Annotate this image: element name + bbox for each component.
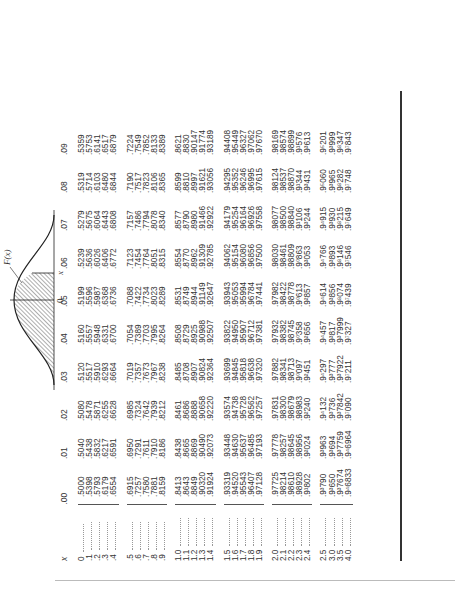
normal-density-shaded-icon — [8, 205, 60, 395]
header-col: .00 — [60, 459, 78, 505]
table-header-row: x .00 .01 .02 .03 .04 .05 .06 .07 .08 .0… — [60, 117, 78, 561]
normal-cdf-table: x .00 .01 .02 .03 .04 .05 .06 .07 .08 .0… — [60, 117, 353, 561]
header-col: .09 — [60, 117, 78, 155]
cdf-cell: .9³053 — [304, 231, 312, 269]
cdf-cell: .8389 — [159, 117, 167, 155]
cdf-cell: .6700 — [110, 307, 118, 345]
row-x-value: .2 — [94, 505, 102, 562]
x-label: 1.9 — [255, 550, 264, 561]
table-row: .4.6554.6591.6628.6664.6700.6736.6772.68… — [110, 117, 118, 561]
cdf-cell: .8159 — [159, 459, 167, 505]
cdf-cell: .97500 — [256, 231, 264, 269]
dot-leader — [135, 522, 141, 550]
cdf-cell: .8238 — [159, 345, 167, 383]
cdf-cell: .97381 — [256, 307, 264, 345]
x-label: .4 — [109, 554, 118, 561]
cdf-cell: .97193 — [256, 421, 264, 459]
cdf-cell: .9¹802 — [304, 459, 312, 505]
table-row: 2.4.9¹802.9²024.9²240.9²451.9²656.9²857.… — [304, 117, 312, 561]
cdf-cell: .9³613 — [304, 117, 312, 155]
cdf-cell: .97320 — [256, 345, 264, 383]
cdf-cell: .9⁷211 — [345, 345, 353, 383]
row-x-value: .4 — [110, 505, 118, 562]
cdf-cell: .9⁷649 — [345, 193, 353, 231]
dot-leader — [94, 522, 100, 550]
header-col: .06 — [60, 231, 78, 269]
cdf-cell: .8365 — [159, 155, 167, 193]
cdf-cell: .6808 — [110, 193, 118, 231]
page-margin-rule — [55, 580, 455, 581]
row-x-value: .7 — [143, 505, 151, 562]
dot-leader — [337, 518, 343, 546]
header-x: x — [60, 505, 78, 562]
cdf-cell: .92647 — [207, 269, 215, 307]
cdf-cell: .8315 — [159, 231, 167, 269]
header-col: .01 — [60, 421, 78, 459]
cdf-cell: .93056 — [207, 155, 215, 193]
cdf-cell: .9⁴6964 — [345, 421, 353, 459]
table-row: 1.9.97128.97193.97257.97320.97381.97441.… — [256, 117, 264, 561]
cdf-cell: .92220 — [207, 383, 215, 421]
dot-leader — [240, 518, 246, 546]
row-x-value: .6 — [135, 505, 143, 562]
cdf-cell: .9²240 — [304, 383, 312, 421]
row-x-value: .1 — [86, 505, 94, 562]
dot-leader — [329, 518, 335, 546]
table-body: 0.5000.5040.5080.5120.5160.5199.5239.527… — [78, 117, 353, 561]
dot-leader — [86, 522, 92, 550]
cdf-cell: .97441 — [256, 269, 264, 307]
header-col: .08 — [60, 155, 78, 193]
dot-leader — [224, 518, 230, 546]
header-col: .02 — [60, 383, 78, 421]
cdf-cell: .92922 — [207, 193, 215, 231]
normal-curve-figure: F(x) 0 x — [8, 205, 60, 395]
cdf-cell: .92507 — [207, 307, 215, 345]
dot-leader — [183, 518, 189, 546]
cdf-cell: .6772 — [110, 231, 118, 269]
dot-leader — [345, 518, 351, 546]
row-x-value: .3 — [102, 505, 110, 562]
header-col: .04 — [60, 307, 78, 345]
x-label: 2.4 — [303, 550, 312, 561]
dot-leader — [110, 522, 116, 550]
x-label: .9 — [158, 554, 167, 561]
dot-leader — [272, 518, 278, 546]
header-col: .05 — [60, 269, 78, 307]
dot-leader — [296, 518, 302, 546]
cdf-cell: .9⁷090 — [345, 383, 353, 421]
cdf-cell: .97670 — [256, 117, 264, 155]
x-label: 1.4 — [206, 550, 215, 561]
cdf-cell: .9⁷748 — [345, 155, 353, 193]
dot-leader — [102, 522, 108, 550]
cdf-cell: .6664 — [110, 345, 118, 383]
table-row: 1.4.91924.92073.92220.92364.92507.92647.… — [207, 117, 215, 561]
row-x-value: 2.4 — [304, 505, 312, 562]
cdf-cell: .9⁷843 — [345, 117, 353, 155]
cdf-cell: .8340 — [159, 193, 167, 231]
table-row: .9.8159.8186.8212.8238.8264.8289.8315.83… — [159, 117, 167, 561]
row-x-value: .9 — [159, 505, 167, 562]
cdf-cell: .9²857 — [304, 269, 312, 307]
dot-leader — [159, 522, 165, 550]
cdf-cell: .9⁷546 — [345, 231, 353, 269]
row-x-value: 0 — [78, 505, 86, 562]
row-x-value: 4.0 — [345, 505, 353, 562]
row-x-value: 1.9 — [256, 505, 264, 562]
cdf-cell: .91924 — [207, 459, 215, 505]
cdf-cell: .97257 — [256, 383, 264, 421]
cdf-cell: .9²656 — [304, 307, 312, 345]
cdf-cell: .9⁷327 — [345, 307, 353, 345]
dot-leader — [191, 518, 197, 546]
cdf-cell: .92364 — [207, 345, 215, 383]
cdf-cell: .97615 — [256, 155, 264, 193]
dot-leader — [151, 522, 157, 550]
cdf-cell: .9⁴6833 — [345, 459, 353, 505]
cdf-cell: .9²451 — [304, 345, 312, 383]
cdf-cell: .8264 — [159, 307, 167, 345]
cdf-cell: .9⁷439 — [345, 269, 353, 307]
cdf-cell: .9³244 — [304, 193, 312, 231]
dot-leader — [199, 518, 205, 546]
cdf-cell: .8186 — [159, 421, 167, 459]
curve-label: F(x) — [2, 250, 12, 266]
cdf-cell: .8289 — [159, 269, 167, 307]
